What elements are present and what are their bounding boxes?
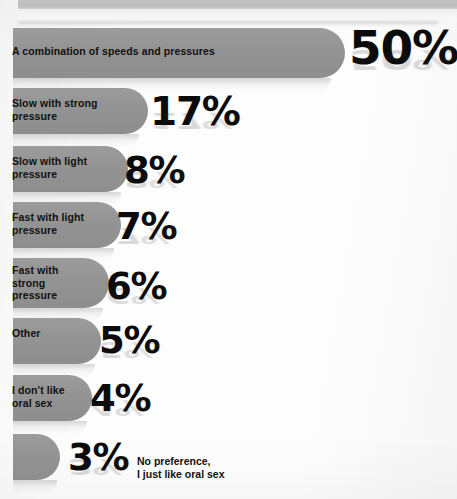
bar-label: Other <box>12 327 41 340</box>
bar-value-label: 4% <box>90 380 150 417</box>
bar-track[interactable] <box>13 434 60 480</box>
bar-value-label: 7% <box>116 208 176 245</box>
bar-value-label: 50% <box>349 24 457 71</box>
bar-value-label: 6% <box>106 268 166 305</box>
bar-label: Slow with strong pressure <box>12 97 98 122</box>
bar-value-label: 5% <box>99 322 159 359</box>
bar-outside-label: No preference, I just like oral sex <box>137 455 225 481</box>
bar-label: Fast with strong pressure <box>12 264 58 302</box>
bar-label: A combination of speeds and pressures <box>12 45 215 58</box>
top-gray-band <box>18 0 457 9</box>
bar-label: Slow with light pressure <box>12 155 87 180</box>
bar-reflection <box>13 421 87 434</box>
bar-value-label: 3% <box>68 439 128 476</box>
infographic-chart: A combination of speeds and pressures 50… <box>0 0 457 499</box>
bar-value-label: 8% <box>124 152 184 189</box>
bar-reflection <box>13 480 57 493</box>
bar-label: Fast with light pressure <box>12 211 84 236</box>
bar-value-label: 17% <box>150 92 240 131</box>
bar-track[interactable] <box>13 318 101 364</box>
bar-label: I don't like oral sex <box>12 384 65 409</box>
